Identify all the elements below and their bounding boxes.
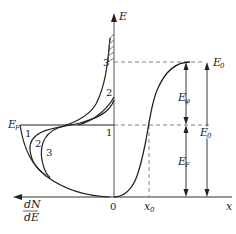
left-axis-arrow-icon (13, 194, 22, 200)
x-axis-label: x (226, 200, 233, 213)
e0-label-right: E 0 (212, 56, 225, 70)
svg-text:φ: φ (185, 97, 190, 105)
curve-3-label: 3 (46, 147, 52, 158)
curve-3-upper-label: 3 (103, 57, 109, 68)
diagram-canvas: E x 0 x 0 dN dE E F E 0 E φ E F E 0 (0, 0, 236, 234)
potential-curve (114, 62, 190, 197)
origin-label: 0 (110, 201, 116, 212)
curve-2-rise (78, 97, 114, 125)
curve-2-label: 2 (35, 138, 41, 149)
svg-text:F: F (184, 161, 191, 169)
x0-label: x 0 (144, 200, 155, 214)
e-phi-label: E φ (177, 91, 190, 105)
e0-dimension-label: E 0 (199, 126, 212, 140)
svg-text:dE: dE (24, 211, 39, 224)
curve-1-label: 1 (25, 128, 31, 139)
axis-1-label: 1 (106, 127, 112, 138)
e-fermi-dimension-label: E F (177, 155, 191, 169)
svg-text:dN: dN (24, 198, 41, 211)
svg-text:0: 0 (150, 206, 155, 214)
dn-de-label: dN dE (23, 198, 41, 224)
diagram-root: E x 0 x 0 dN dE E F E 0 E φ E F E 0 (0, 0, 236, 234)
svg-text:0: 0 (220, 62, 225, 70)
energy-axis-arrow-icon (111, 13, 117, 22)
svg-text:0: 0 (207, 132, 212, 140)
fermi-label-left: E F (7, 118, 21, 132)
curve-2-upper-label: 2 (106, 87, 112, 98)
e-axis-label: E (118, 10, 127, 23)
